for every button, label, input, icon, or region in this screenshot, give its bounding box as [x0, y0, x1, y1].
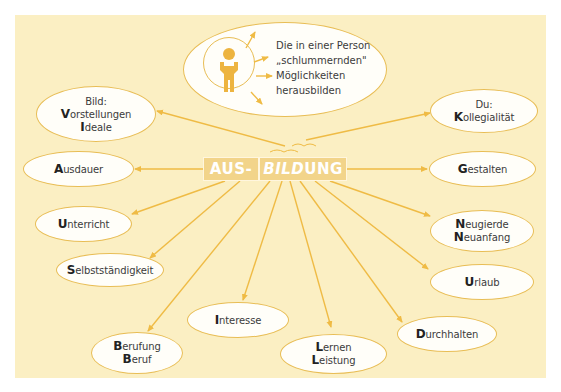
- node-initial: N: [454, 230, 464, 244]
- node-label: eugierde: [465, 219, 508, 230]
- center-word-rest: UNG: [304, 160, 343, 178]
- center-word-box: BILDUNG: [259, 157, 347, 181]
- node-label: nterricht: [67, 219, 109, 230]
- center-word-italic: BILD: [263, 160, 304, 178]
- node-initial: D: [416, 327, 426, 341]
- node-selbststaendigkeit: Selbstständigkeit: [56, 253, 164, 287]
- center-prefix: AUS-: [210, 160, 252, 178]
- node-label: orstellungen: [70, 109, 131, 120]
- node-label: erufung: [122, 341, 160, 352]
- person-arms-raised-icon: [180, 20, 290, 130]
- node-interesse: Interesse: [187, 302, 289, 338]
- node-label: nteresse: [219, 315, 261, 326]
- node-label: ollegialität: [463, 112, 514, 123]
- node-label: eistung: [319, 355, 355, 366]
- node-label: deale: [85, 122, 112, 133]
- node-initial: L: [312, 353, 320, 367]
- node-label: estalten: [467, 164, 507, 175]
- node-initial: U: [58, 217, 68, 231]
- node-label: ernen: [323, 342, 351, 353]
- node-neugierde: Neugierde Neuanfang: [430, 210, 534, 252]
- node-bild: Bild: Vorstellungen Ideale: [36, 86, 156, 142]
- node-initial: B: [113, 339, 122, 353]
- node-label: usdauer: [63, 164, 103, 175]
- node-unterricht: Unterricht: [35, 206, 132, 242]
- node-initial: S: [67, 263, 76, 277]
- top-bubble-line: „schlummernden": [276, 53, 370, 68]
- node-lernen: Lernen Leistung: [280, 334, 387, 374]
- node-label: euanfang: [464, 232, 511, 243]
- top-bubble-text: Die in einer Person „schlummernden" Mögl…: [276, 38, 370, 98]
- node-ausdauer: Ausdauer: [23, 151, 134, 187]
- node-initial: B: [123, 352, 132, 366]
- node-durchhalten: Durchhalten: [397, 316, 497, 352]
- node-gestalten: Gestalten: [429, 151, 536, 187]
- node-initial: N: [455, 217, 465, 231]
- center-prefix-box: AUS-: [203, 157, 259, 181]
- top-bubble-line: Die in einer Person: [276, 38, 370, 53]
- node-du: Du: Kollegialität: [430, 89, 538, 133]
- node-initial: U: [465, 275, 475, 289]
- node-initial: A: [54, 162, 63, 176]
- node-berufung: Berufung Beruf: [91, 332, 183, 374]
- top-bubble-line: Möglichkeiten: [276, 68, 370, 83]
- node-label: Bild:: [85, 96, 107, 107]
- top-bubble-line: herausbilden: [276, 83, 370, 98]
- node-initial: K: [454, 110, 463, 124]
- node-label: Du:: [475, 99, 492, 110]
- node-label: elbstständigkeit: [75, 265, 153, 276]
- node-initial: V: [61, 107, 70, 121]
- node-initial: G: [458, 162, 468, 176]
- node-label: rlaub: [474, 277, 499, 288]
- node-initial: L: [316, 340, 324, 354]
- node-label: urchhalten: [426, 329, 479, 340]
- node-label: eruf: [132, 354, 152, 365]
- node-urlaub: Urlaub: [430, 264, 534, 300]
